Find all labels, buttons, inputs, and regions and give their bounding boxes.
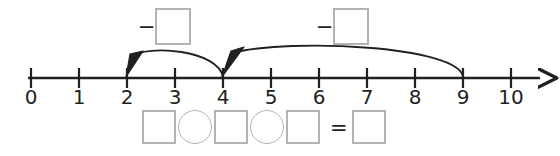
jump-2-answer-box[interactable]	[333, 8, 369, 45]
equation-circle-1[interactable]	[178, 110, 212, 144]
equation-box-3[interactable]	[286, 110, 320, 144]
equation-circle-2[interactable]	[250, 110, 284, 144]
tick-label-2: 2	[107, 86, 147, 108]
tick-label-0: 0	[11, 86, 51, 108]
jump-arc-1-arrowhead	[126, 51, 143, 77]
equation-box-4[interactable]	[352, 110, 386, 144]
tick-label-7: 7	[347, 86, 387, 108]
jump-arc-2-arrowhead	[222, 47, 244, 77]
equation-box-2[interactable]	[214, 110, 248, 144]
tick-label-4: 4	[203, 86, 243, 108]
equation-box-1[interactable]	[142, 110, 176, 144]
tick-label-9: 9	[443, 86, 483, 108]
jump-1-answer-box[interactable]	[155, 8, 191, 45]
tick-label-3: 3	[155, 86, 195, 108]
tick-label-6: 6	[299, 86, 339, 108]
number-line-worksheet: 0 1 2 3 4 5 6 7 8 9 10 − − =	[0, 0, 560, 156]
tick-label-10: 10	[491, 86, 531, 108]
tick-label-8: 8	[395, 86, 435, 108]
tick-label-1: 1	[59, 86, 99, 108]
jump-1-minus-sign: −	[138, 17, 156, 38]
jump-arc-2	[222, 46, 463, 77]
tick-label-5: 5	[251, 86, 291, 108]
jump-2-minus-sign: −	[316, 17, 334, 38]
equation-equals-sign: =	[330, 118, 348, 139]
